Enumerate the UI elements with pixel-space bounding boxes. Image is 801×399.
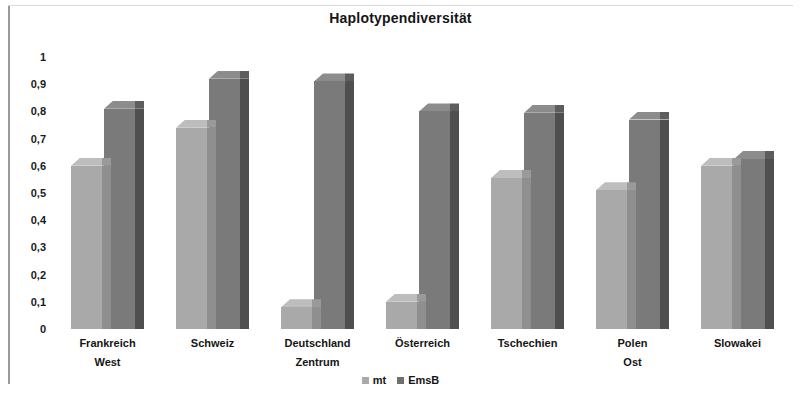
- bar-face-side: [555, 113, 564, 329]
- bar-face-side: [660, 120, 669, 329]
- bar-face-side: [417, 302, 426, 329]
- y-axis-tick-label: 0,8: [31, 105, 46, 117]
- x-axis-category-line1: Polen: [618, 337, 648, 349]
- x-axis-category-line1: Österreich: [395, 337, 450, 349]
- y-axis-tick-label: 0,3: [31, 241, 46, 253]
- bar-face-topside: [627, 182, 636, 190]
- y-axis-tick-label: 0,4: [31, 214, 46, 226]
- x-axis-category-line1: Schweiz: [191, 337, 234, 349]
- bar-face-topside: [660, 112, 669, 120]
- bar-face-top: [71, 158, 102, 166]
- bar-face-side: [627, 190, 636, 329]
- bar-face-top: [176, 120, 207, 128]
- chart-screenshot: Haplotypendiversität 10,90,80,70,60,50,4…: [0, 0, 801, 399]
- x-axis-category-line2: West: [55, 353, 160, 372]
- bar-mt: [386, 302, 417, 329]
- bar-face-top: [314, 73, 345, 81]
- chart-legend: mtEmsB: [0, 374, 801, 386]
- bar-face-top: [701, 158, 732, 166]
- bar-face-side: [450, 111, 459, 329]
- bar-face-topside: [135, 101, 144, 109]
- bar-face-top: [419, 103, 450, 111]
- bar-mt: [71, 166, 102, 329]
- x-axis-category-label: Schweiz: [160, 334, 265, 353]
- bar-face-top: [386, 294, 417, 302]
- bar-face-top: [491, 170, 522, 178]
- bar-group: [596, 57, 669, 329]
- bar-face-top: [734, 151, 765, 159]
- bar-face-topside: [102, 158, 111, 166]
- bar-face-side: [732, 166, 741, 329]
- bar-face-front: [491, 178, 522, 329]
- bar-face-top: [104, 101, 135, 109]
- bar-face-side: [765, 159, 774, 329]
- bar-face-topside: [765, 151, 774, 159]
- x-axis-category-line1: Slowakei: [714, 337, 761, 349]
- bar-face-side: [240, 79, 249, 329]
- bar-face-topside: [732, 158, 741, 166]
- bar-emsb: [314, 81, 345, 329]
- x-axis-category-line2: Ost: [580, 353, 685, 372]
- bar-face-front: [176, 128, 207, 329]
- bar-face-front: [596, 190, 627, 329]
- chart-title: Haplotypendiversität: [0, 10, 801, 26]
- legend-label: mt: [373, 374, 386, 386]
- bar-face-side: [135, 109, 144, 329]
- bar-face-top: [524, 105, 555, 113]
- bar-mt: [176, 128, 207, 329]
- bar-group: [176, 57, 249, 329]
- bar-face-side: [207, 128, 216, 329]
- page-frame-left-edge: [8, 6, 10, 384]
- x-axis-category-label: FrankreichWest: [55, 334, 160, 372]
- bar-face-front: [701, 166, 732, 329]
- legend-item-mt[interactable]: mt: [362, 374, 386, 386]
- bar-face-topside: [240, 71, 249, 79]
- bar-face-topside: [207, 120, 216, 128]
- bar-face-front: [71, 166, 102, 329]
- y-axis-tick-label: 0,1: [31, 296, 46, 308]
- bar-mt: [281, 307, 312, 329]
- y-axis-tick-label: 0,6: [31, 160, 46, 172]
- bar-mt: [596, 190, 627, 329]
- bar-face-top: [281, 299, 312, 307]
- x-axis-category-label: DeutschlandZentrum: [265, 334, 370, 372]
- x-axis-category-line1: Frankreich: [79, 337, 135, 349]
- bar-face-topside: [522, 170, 531, 178]
- x-axis-category-line1: Tschechien: [498, 337, 558, 349]
- bar-face-side: [312, 307, 321, 329]
- y-axis-tick-label: 0: [40, 323, 46, 335]
- bar-face-topside: [312, 299, 321, 307]
- bar-face-front: [281, 307, 312, 329]
- bar-mt: [701, 166, 732, 329]
- bar-face-topside: [417, 294, 426, 302]
- bar-face-top: [629, 112, 660, 120]
- x-axis-category-line1: Deutschland: [284, 337, 350, 349]
- legend-swatch-icon: [397, 377, 404, 384]
- bar-face-side: [102, 166, 111, 329]
- bar-face-side: [345, 81, 354, 329]
- plot-area: 10,90,80,70,60,50,40,30,20,10: [55, 57, 790, 329]
- bar-face-topside: [450, 103, 459, 111]
- y-axis-tick-label: 0,9: [31, 78, 46, 90]
- bar-group: [491, 57, 564, 329]
- y-axis-tick-label: 0,2: [31, 269, 46, 281]
- bar-group: [71, 57, 144, 329]
- legend-item-emsb[interactable]: EmsB: [397, 374, 439, 386]
- bar-face-topside: [345, 73, 354, 81]
- legend-label: EmsB: [408, 374, 439, 386]
- legend-swatch-icon: [362, 377, 369, 384]
- bar-group: [281, 57, 354, 329]
- x-axis-category-label: Österreich: [370, 334, 475, 353]
- x-axis-category-label: Slowakei: [685, 334, 790, 353]
- y-axis-tick-label: 0,7: [31, 133, 46, 145]
- x-axis-category-label: PolenOst: [580, 334, 685, 372]
- bar-face-front: [314, 81, 345, 329]
- bar-group: [386, 57, 459, 329]
- bar-group: [701, 57, 774, 329]
- bar-face-top: [596, 182, 627, 190]
- bar-face-top: [209, 71, 240, 79]
- bar-face-side: [522, 178, 531, 329]
- y-axis-tick-label: 1: [40, 51, 46, 63]
- bar-face-front: [386, 302, 417, 329]
- x-axis-category-line2: Zentrum: [265, 353, 370, 372]
